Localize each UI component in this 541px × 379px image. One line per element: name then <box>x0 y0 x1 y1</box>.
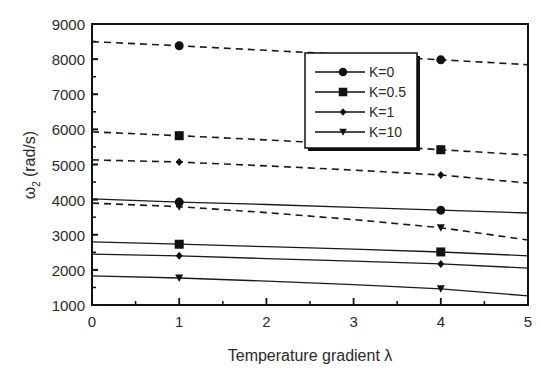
circle-marker-icon <box>436 55 445 64</box>
y-tick-label: 6000 <box>52 121 85 138</box>
legend-label: K=10 <box>369 124 402 140</box>
series-line <box>92 203 528 240</box>
x-axis-label: Temperature gradient λ <box>228 347 393 364</box>
y-tick-label: 4000 <box>52 192 85 209</box>
circle-marker-icon <box>175 198 184 207</box>
y-axis-subscript: 2 <box>31 181 42 187</box>
square-marker-icon <box>436 247 445 256</box>
circle-marker-icon <box>175 41 184 50</box>
square-marker-icon <box>175 131 184 140</box>
axes: 1000200030004000500060007000800090000123… <box>52 16 533 330</box>
y-tick-label: 1000 <box>52 297 85 314</box>
y-axis-symbol: ω <box>21 187 38 200</box>
series-line <box>92 242 528 256</box>
y-tick-label: 7000 <box>52 86 85 103</box>
y-tick-label: 3000 <box>52 227 85 244</box>
legend-label: K=1 <box>369 104 395 120</box>
x-tick-label: 3 <box>349 313 357 330</box>
diamond-marker-icon <box>437 260 444 268</box>
y-tick-label: 2000 <box>52 262 85 279</box>
y-axis-unit: (rad/s) <box>21 131 38 177</box>
legend: K=0K=0.5K=1K=10 <box>305 53 420 151</box>
legend-label: K=0.5 <box>369 84 406 100</box>
diamond-marker-icon <box>176 252 183 260</box>
diamond-marker-icon <box>437 171 444 179</box>
chart-canvas: 1000200030004000500060007000800090000123… <box>0 0 541 379</box>
x-tick-label: 1 <box>175 313 183 330</box>
x-tick-label: 2 <box>262 313 270 330</box>
x-tick-label: 4 <box>437 313 445 330</box>
series-line <box>92 276 528 296</box>
square-marker-icon <box>436 145 445 154</box>
svg-text:ω2(rad/s): ω2(rad/s) <box>21 131 42 199</box>
y-axis-label: ω2(rad/s) <box>21 131 42 199</box>
diamond-marker-icon <box>176 158 183 166</box>
square-marker-icon <box>339 88 348 97</box>
y-tick-label: 8000 <box>52 51 85 68</box>
series-line <box>92 254 528 268</box>
series-line <box>92 160 528 183</box>
y-tick-label: 5000 <box>52 157 85 174</box>
square-marker-icon <box>175 240 184 249</box>
legend-label: K=0 <box>369 64 395 80</box>
circle-marker-icon <box>436 206 445 215</box>
x-tick-label: 5 <box>524 313 532 330</box>
y-tick-label: 9000 <box>52 16 85 33</box>
circle-marker-icon <box>339 68 348 77</box>
x-tick-label: 0 <box>88 313 96 330</box>
